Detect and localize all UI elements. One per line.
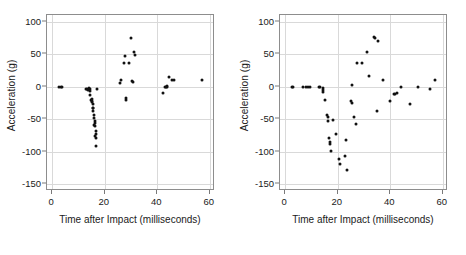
y-tick-label: -150	[255, 178, 274, 189]
y-axis-title-left: Acceleration (g)	[2, 0, 22, 190]
y-tick-label: 0	[269, 80, 274, 91]
data-point	[162, 92, 165, 95]
data-point	[94, 124, 97, 127]
y-axis-ticks-left: 100500-50-100-150	[20, 0, 46, 190]
data-point	[382, 78, 385, 81]
data-point	[94, 145, 97, 148]
gridline-horizontal	[280, 119, 446, 120]
x-tick-mark	[156, 190, 157, 194]
y-tick-label: -50	[260, 113, 274, 124]
data-point	[327, 119, 330, 122]
x-axis-title-right: Time after Impact (milliseconds)	[263, 214, 463, 225]
data-point	[89, 89, 92, 92]
x-tick-label: 20	[331, 196, 342, 207]
gridline-vertical	[210, 15, 211, 189]
y-axis-title-right: Acceleration (g)	[235, 0, 255, 190]
gridline-horizontal	[280, 184, 446, 185]
data-point	[408, 103, 411, 106]
x-tick-label: 60	[436, 196, 447, 207]
y-tick-label: -50	[27, 113, 41, 124]
data-point	[345, 138, 348, 141]
gridline-horizontal	[47, 87, 213, 88]
data-point	[95, 136, 98, 139]
x-tick-mark	[104, 190, 105, 194]
data-point	[119, 82, 122, 85]
data-point	[332, 118, 335, 121]
data-point	[88, 93, 91, 96]
data-point	[125, 96, 128, 99]
data-point	[322, 90, 325, 93]
data-point	[346, 169, 349, 172]
gridline-vertical	[105, 15, 106, 189]
data-point	[339, 162, 342, 165]
data-point	[91, 102, 94, 105]
y-tick-label: 100	[258, 15, 274, 26]
gridline-horizontal	[47, 184, 213, 185]
data-point	[329, 141, 332, 144]
y-tick-label: -100	[22, 145, 41, 156]
x-axis-title-left: Time after Impact (milliseconds)	[30, 214, 230, 225]
data-point	[350, 102, 353, 105]
x-axis-ticks-left: 0204060	[46, 190, 214, 208]
y-axis-title-left-text: Acceleration (g)	[7, 59, 18, 131]
data-point	[120, 79, 123, 82]
gridline-horizontal	[47, 22, 213, 23]
data-point	[308, 86, 311, 89]
gridline-horizontal	[280, 22, 446, 23]
gridline-vertical	[443, 15, 444, 189]
chart-panel-left: Acceleration (g) 100500-50-100-150 02040…	[0, 0, 233, 255]
x-tick-label: 0	[49, 196, 54, 207]
y-tick-label: 50	[30, 48, 41, 59]
data-point	[354, 122, 357, 125]
data-point	[343, 155, 346, 158]
x-tick-mark	[337, 190, 338, 194]
gridline-vertical	[285, 15, 286, 189]
data-point	[388, 100, 391, 103]
data-point	[200, 78, 203, 81]
data-point	[327, 137, 330, 140]
gridline-horizontal	[47, 54, 213, 55]
gridline-vertical	[52, 15, 53, 189]
data-point	[127, 62, 130, 65]
x-tick-mark	[209, 190, 210, 194]
data-point	[334, 133, 337, 136]
x-tick-label: 20	[98, 196, 109, 207]
data-point	[130, 36, 133, 39]
x-tick-mark	[284, 190, 285, 194]
data-point	[368, 75, 371, 78]
x-tick-label: 60	[203, 196, 214, 207]
data-point	[355, 61, 358, 64]
data-point	[375, 109, 378, 112]
data-point	[60, 86, 63, 89]
x-tick-mark	[389, 190, 390, 194]
data-point	[429, 87, 432, 90]
chart-panel-right: Acceleration (g) 100500-50-100-150 02040…	[233, 0, 466, 255]
data-point	[360, 62, 363, 65]
data-point	[399, 85, 402, 88]
data-point	[292, 85, 295, 88]
data-point	[92, 110, 95, 113]
data-point	[396, 92, 399, 95]
gridline-horizontal	[280, 152, 446, 153]
data-point	[417, 85, 420, 88]
data-point	[166, 85, 169, 88]
x-tick-mark	[442, 190, 443, 194]
x-tick-mark	[51, 190, 52, 194]
data-point	[172, 78, 175, 81]
y-axis-title-right-text: Acceleration (g)	[240, 59, 251, 131]
x-axis-ticks-right: 0204060	[279, 190, 447, 208]
data-point	[95, 88, 98, 91]
y-tick-label: 0	[36, 80, 41, 91]
x-tick-label: 40	[384, 196, 395, 207]
data-point	[376, 40, 379, 43]
gridline-horizontal	[47, 152, 213, 153]
data-point	[91, 98, 94, 101]
data-point	[352, 115, 355, 118]
y-axis-ticks-right: 100500-50-100-150	[253, 0, 279, 190]
data-point	[365, 50, 368, 53]
data-point	[324, 99, 327, 102]
plot-area-left	[46, 14, 214, 190]
data-point	[92, 106, 95, 109]
y-tick-label: 50	[263, 48, 274, 59]
data-point	[122, 61, 125, 64]
